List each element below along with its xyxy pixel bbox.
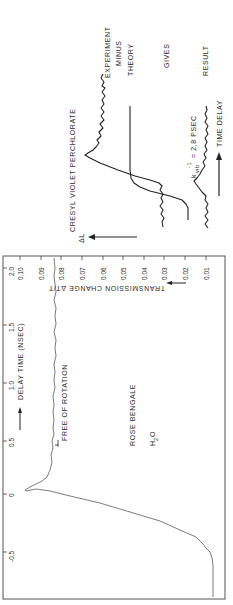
- solvent-label: H 2 O: [149, 431, 159, 446]
- svg-text:0: 0: [8, 493, 15, 497]
- result-label: RESULT: [202, 45, 209, 76]
- svg-text:0.10: 0.10: [17, 267, 24, 280]
- svg-text:2.0: 2.0: [8, 267, 15, 276]
- delay-axis-ticks: [3, 268, 7, 552]
- svg-text:vib: vib: [194, 164, 200, 173]
- svg-text:k: k: [190, 174, 197, 178]
- svg-text:0.06: 0.06: [100, 267, 107, 280]
- minus-label: MINUS: [115, 40, 122, 66]
- delay-time-axis-label: DELAY TIME (NSEC): [17, 323, 25, 400]
- free-of-rotation-label: FREE OF ROTATION: [61, 364, 68, 441]
- upper-panel: CRESYL VIOLET PERCHLORATE ΔL EXPERIMENT …: [69, 26, 223, 243]
- free-of-rotation-pointer: [55, 440, 58, 447]
- delay-tick-labels: 2.0 1.5 1.0 0.5 0 -0.5: [8, 267, 15, 562]
- delta-l-label: ΔL: [78, 233, 85, 243]
- plot-frame: [3, 256, 225, 599]
- svg-text:0.07: 0.07: [79, 267, 86, 280]
- svg-text:-1: -1: [186, 162, 192, 168]
- transmission-tick-labels: 0.10 0.09 0.08 0.07 0.06 0.05 0.04 0.03 …: [17, 267, 210, 280]
- svg-text:-0.5: -0.5: [8, 550, 15, 562]
- theory-trace: [130, 106, 188, 220]
- rose-bengale-curve: [25, 258, 213, 597]
- cresyl-violet-label: CRESYL VIOLET PERCHLORATE: [69, 109, 76, 232]
- svg-text:O: O: [149, 431, 156, 437]
- svg-text:0.02: 0.02: [182, 267, 189, 280]
- transmission-axis-ticks: [20, 256, 206, 260]
- rose-bengale-label: ROSE BENGALE: [129, 384, 136, 446]
- delta-l-arrow-icon: [88, 234, 137, 240]
- kvib-annotation: k vib -1 = 2,8 PSEC: [186, 115, 200, 178]
- time-delay-label: TIME DELAY: [216, 100, 223, 147]
- svg-text:0.5: 0.5: [8, 438, 15, 447]
- svg-text:0.03: 0.03: [161, 267, 168, 280]
- transmission-arrow-icon: [166, 281, 186, 285]
- lower-panel: 0.10 0.09 0.08 0.07 0.06 0.05 0.04 0.03 …: [3, 256, 225, 599]
- gives-label: GIVES: [163, 44, 170, 68]
- transmission-axis-label: TRANSMISSION CHANGE ΔT/T: [48, 285, 165, 292]
- svg-text:1.0: 1.0: [8, 381, 15, 390]
- svg-text:0.01: 0.01: [203, 267, 210, 280]
- svg-text:0.09: 0.09: [38, 267, 45, 280]
- svg-text:0.05: 0.05: [120, 267, 127, 280]
- svg-text:1.5: 1.5: [8, 323, 15, 332]
- svg-text:0.08: 0.08: [58, 267, 65, 280]
- svg-text:0.04: 0.04: [141, 267, 148, 280]
- experiment-trace: [85, 74, 164, 227]
- delay-arrow-icon: [18, 407, 22, 430]
- theory-label: THEORY: [127, 43, 134, 76]
- paper-figure: CRESYL VIOLET PERCHLORATE ΔL EXPERIMENT …: [0, 0, 233, 605]
- svg-text:= 2,8 PSEC: = 2,8 PSEC: [190, 115, 197, 158]
- figure-svg: CRESYL VIOLET PERCHLORATE ΔL EXPERIMENT …: [0, 0, 233, 605]
- experiment-label: EXPERIMENT: [104, 26, 111, 78]
- time-delay-arrow-icon: [216, 152, 222, 196]
